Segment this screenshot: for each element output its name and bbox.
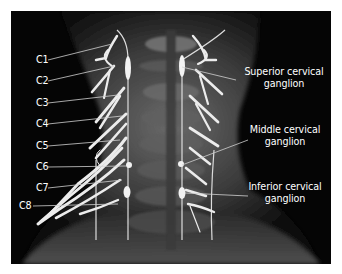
left-middle-ganglion	[126, 162, 132, 168]
right-middle-ganglion	[178, 161, 184, 167]
right-inferior-ganglion	[179, 187, 186, 199]
label-line: ganglion	[243, 193, 327, 205]
label-c1: C1	[36, 54, 49, 66]
right-superior-ganglion	[179, 55, 185, 77]
cervical-nerves-figure: C1 C2 C3 C4 C5 C6 C7 C8 Superior cervica…	[11, 11, 331, 264]
label-line: Superior cervical	[242, 66, 326, 78]
left-superior-ganglion	[125, 56, 131, 80]
label-c6: C6	[36, 161, 49, 173]
label-superior-cervical-ganglion: Superior cervical ganglion	[242, 66, 326, 90]
label-c5: C5	[36, 140, 49, 152]
label-c8: C8	[19, 200, 32, 212]
label-line: Middle cervical	[245, 124, 325, 136]
label-line: Inferior cervical	[243, 181, 327, 193]
label-line: ganglion	[242, 78, 326, 90]
label-inferior-cervical-ganglion: Inferior cervical ganglion	[243, 181, 327, 205]
label-c3: C3	[36, 97, 49, 109]
label-c4: C4	[36, 118, 49, 130]
label-line: ganglion	[245, 136, 325, 148]
label-middle-cervical-ganglion: Middle cervical ganglion	[245, 124, 325, 148]
label-c7: C7	[36, 182, 49, 194]
left-inferior-ganglion	[124, 186, 131, 198]
label-c2: C2	[36, 75, 49, 87]
